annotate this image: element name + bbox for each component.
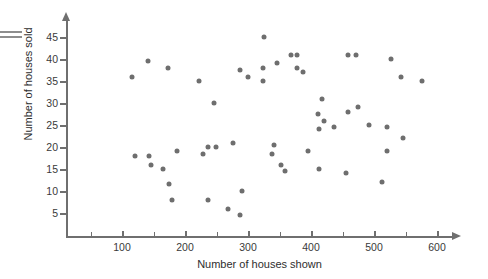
data-point	[174, 149, 179, 154]
data-point	[205, 145, 210, 150]
data-point	[225, 206, 230, 211]
data-point	[200, 151, 205, 156]
x-tick-minor	[406, 232, 408, 237]
y-tick-label: 35	[12, 75, 58, 87]
data-point	[306, 149, 311, 154]
x-tick-label: 500	[365, 241, 383, 253]
y-tick	[60, 81, 66, 83]
data-point	[384, 125, 389, 130]
data-point	[211, 101, 216, 106]
x-tick-label: 400	[302, 241, 320, 253]
x-tick-minor	[91, 232, 93, 237]
y-tick	[60, 103, 66, 105]
data-point	[237, 68, 242, 73]
x-tick-label: 600	[428, 241, 446, 253]
x-tick-minor	[154, 232, 156, 237]
x-tick	[437, 231, 439, 237]
data-point	[230, 140, 235, 145]
x-tick	[248, 231, 250, 237]
data-point	[354, 52, 359, 57]
data-point	[346, 109, 351, 114]
data-point	[295, 65, 300, 70]
y-tick-label: 5	[12, 207, 58, 219]
x-axis-line	[66, 236, 453, 238]
y-tick-label: 25	[12, 119, 58, 131]
y-tick-label: 40	[12, 53, 58, 65]
x-tick-minor	[217, 232, 219, 237]
data-point	[384, 149, 389, 154]
data-point	[400, 136, 405, 141]
data-point	[196, 79, 201, 84]
data-point	[271, 142, 276, 147]
x-tick-label: 200	[176, 241, 194, 253]
data-point	[380, 180, 385, 185]
data-point	[332, 125, 337, 130]
y-tick-label: 15	[12, 163, 58, 175]
data-point	[319, 96, 324, 101]
data-point	[145, 59, 150, 64]
data-point	[147, 153, 152, 158]
y-tick	[60, 37, 66, 39]
y-tick	[60, 191, 66, 193]
y-tick	[60, 169, 66, 171]
data-point	[389, 57, 394, 62]
y-tick	[60, 213, 66, 215]
y-tick	[60, 59, 66, 61]
data-point	[321, 118, 326, 123]
chart-screenshot: 51015202530354045 100200300400500600 Num…	[0, 0, 488, 279]
data-point	[167, 182, 172, 187]
data-point	[169, 197, 174, 202]
data-point	[261, 79, 266, 84]
x-tick	[122, 231, 124, 237]
data-point	[205, 197, 210, 202]
x-tick	[185, 231, 187, 237]
data-point	[133, 153, 138, 158]
data-point	[148, 162, 153, 167]
y-axis-title: Number of houses sold	[22, 4, 34, 164]
data-point	[278, 162, 283, 167]
y-axis-arrow-icon	[62, 12, 70, 21]
x-tick-minor	[280, 232, 282, 237]
data-point	[282, 169, 287, 174]
x-tick-label: 300	[239, 241, 257, 253]
data-point	[399, 74, 404, 79]
x-tick	[311, 231, 313, 237]
data-point	[165, 65, 170, 70]
data-point	[419, 79, 424, 84]
y-tick-label: 45	[12, 31, 58, 43]
x-tick-minor	[343, 232, 345, 237]
data-point	[160, 167, 165, 172]
data-point	[315, 112, 320, 117]
data-point	[130, 74, 135, 79]
y-tick	[60, 125, 66, 127]
data-point	[237, 213, 242, 218]
data-point	[261, 35, 266, 40]
y-tick	[60, 147, 66, 149]
y-axis-line	[66, 20, 68, 237]
y-tick-label: 30	[12, 97, 58, 109]
data-point	[300, 70, 305, 75]
data-point	[239, 189, 244, 194]
data-point	[261, 65, 266, 70]
y-tick-label: 20	[12, 141, 58, 153]
data-point	[274, 61, 279, 66]
x-axis-arrow-icon	[452, 232, 461, 240]
x-tick	[374, 231, 376, 237]
scatter-plot: 51015202530354045 100200300400500600 Num…	[0, 0, 488, 279]
data-point	[246, 74, 251, 79]
data-point	[343, 171, 348, 176]
data-point	[346, 52, 351, 57]
data-point	[366, 123, 371, 128]
x-axis-title: Number of houses shown	[66, 258, 453, 270]
data-point	[288, 52, 293, 57]
data-point	[317, 127, 322, 132]
x-tick-label: 100	[113, 241, 131, 253]
data-point	[295, 52, 300, 57]
data-point	[269, 151, 274, 156]
data-point	[356, 105, 361, 110]
data-point	[316, 167, 321, 172]
y-tick-label: 10	[12, 185, 58, 197]
data-point	[213, 145, 218, 150]
